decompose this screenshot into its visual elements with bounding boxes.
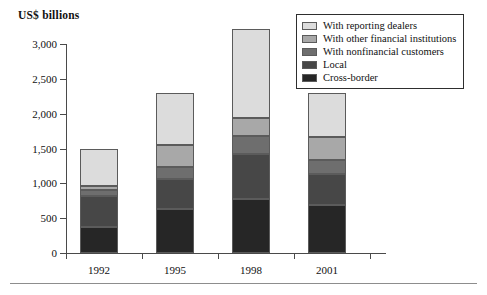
chart-legend: With reporting dealersWith other financi… [296, 14, 464, 89]
bar-segment-1992-with-other-financial-institutions [80, 186, 118, 190]
legend-swatch-icon [302, 48, 317, 56]
y-tick-1000 [60, 183, 66, 184]
bar-1992 [80, 149, 118, 254]
bar-segment-1998-with-nonfinancial-customers [232, 136, 270, 154]
legend-swatch-icon [302, 74, 317, 82]
bar-segment-1998-with-other-financial-institutions [232, 118, 270, 136]
bar-segment-1998-cross-border [232, 199, 270, 253]
bar-segment-1992-with-reporting-dealers [80, 149, 118, 187]
legend-item: Local [302, 58, 456, 71]
bar-segment-2001-with-other-financial-institutions [308, 137, 346, 160]
x-tick-1995 [142, 253, 143, 259]
y-tick-1500 [60, 149, 66, 150]
x-tick-end [370, 253, 371, 259]
x-axis-line [66, 253, 386, 254]
bar-segment-1998-local [232, 154, 270, 199]
bar-segment-1992-cross-border [80, 227, 118, 253]
bar-segment-1992-local [80, 196, 118, 227]
bar-segment-2001-with-reporting-dealers [308, 93, 346, 137]
legend-swatch-icon [302, 61, 317, 69]
bar-segment-1995-with-reporting-dealers [156, 93, 194, 145]
legend-item-label: Cross-border [323, 71, 378, 84]
legend-swatch-icon [302, 22, 317, 30]
legend-item: With nonfinancial customers [302, 45, 456, 58]
legend-swatch-icon [302, 35, 317, 43]
bar-segment-1995-with-nonfinancial-customers [156, 167, 194, 179]
x-tick-2001 [294, 253, 295, 259]
y-tick-500 [60, 218, 66, 219]
y-tick-label-1000: 1,000 [32, 177, 57, 189]
x-tick-label-1995: 1995 [164, 264, 186, 276]
legend-item-label: With other financial institutions [323, 32, 456, 45]
x-tick-1998 [218, 253, 219, 259]
chart-figure: US$ billions 05001,0001,5002,0002,5003,0… [0, 0, 487, 295]
bar-segment-1995-local [156, 179, 194, 209]
bar-segment-1995-cross-border [156, 209, 194, 253]
page-rule [10, 283, 477, 284]
legend-item: Cross-border [302, 71, 456, 84]
bar-1998 [232, 29, 270, 253]
y-tick-label-2500: 2,500 [32, 73, 57, 85]
legend-item-label: With reporting dealers [323, 19, 417, 32]
y-tick-2000 [60, 114, 66, 115]
y-tick-label-2000: 2,000 [32, 108, 57, 120]
bar-segment-2001-cross-border [308, 205, 346, 253]
y-tick-label-500: 500 [41, 212, 58, 224]
bar-segment-1998-with-reporting-dealers [232, 29, 270, 117]
x-tick-1992 [66, 253, 67, 259]
bar-1995 [156, 93, 194, 253]
bar-segment-1995-with-other-financial-institutions [156, 145, 194, 167]
y-tick-3000 [60, 44, 66, 45]
y-tick-2500 [60, 79, 66, 80]
x-tick-label-1998: 1998 [240, 264, 262, 276]
legend-item-label: Local [323, 58, 347, 71]
y-axis-line [66, 44, 67, 253]
bar-segment-2001-local [308, 174, 346, 205]
legend-item-label: With nonfinancial customers [323, 45, 444, 58]
legend-item: With reporting dealers [302, 19, 456, 32]
bar-segment-1992-with-nonfinancial-customers [80, 190, 118, 196]
y-tick-label-0: 0 [52, 247, 58, 259]
legend-item: With other financial institutions [302, 32, 456, 45]
y-tick-label-1500: 1,500 [32, 143, 57, 155]
y-tick-label-3000: 3,000 [32, 38, 57, 50]
bar-2001 [308, 93, 346, 253]
chart-title: US$ billions [18, 9, 80, 21]
x-tick-label-1992: 1992 [88, 264, 110, 276]
x-tick-label-2001: 2001 [316, 264, 338, 276]
bar-segment-2001-with-nonfinancial-customers [308, 160, 346, 173]
